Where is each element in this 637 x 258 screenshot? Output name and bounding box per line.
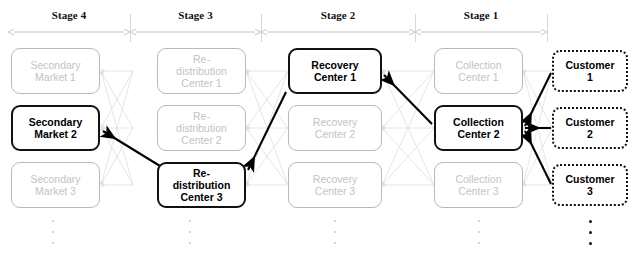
- node-label: SecondaryMarket 3: [15, 173, 96, 197]
- node-label: CollectionCenter 3: [438, 173, 519, 197]
- node-label: Customer3: [557, 173, 623, 197]
- node-collection-center-3[interactable]: CollectionCenter 3: [434, 162, 523, 208]
- node-label: Customer2: [557, 116, 623, 140]
- edge-redistribution3-to-secondarymarket2: [103, 131, 160, 166]
- node-collection-center-2[interactable]: CollectionCenter 2: [434, 105, 523, 151]
- node-label: Customer1: [557, 59, 623, 83]
- edge-recovery1-to-redistribution3: [248, 92, 286, 170]
- node-redistribution-center-3[interactable]: Re-distributionCenter 3: [157, 162, 246, 208]
- edge-customer3-to-collection2: [525, 131, 551, 184]
- node-label: SecondaryMarket 2: [16, 116, 95, 140]
- node-label: SecondaryMarket 1: [15, 59, 96, 83]
- ellipsis-redistribution-center: [185, 220, 195, 254]
- ellipsis-customer: [585, 220, 595, 254]
- node-redistribution-center-1[interactable]: Re-distributionCenter 1: [157, 48, 246, 94]
- node-recovery-center-1[interactable]: RecoveryCenter 1: [288, 48, 382, 94]
- ellipsis-collection-center: [474, 220, 484, 254]
- ellipsis-recovery-center: [330, 220, 340, 254]
- supply-chain-diagram: Stage 4 Stage 3 Stage 2 Stage 1: [0, 0, 637, 258]
- node-redistribution-center-2[interactable]: Re-distributionCenter 2: [157, 105, 246, 151]
- node-label: RecoveryCenter 2: [292, 116, 378, 140]
- node-recovery-center-2[interactable]: RecoveryCenter 2: [288, 105, 382, 151]
- edge-collection2-to-recovery1: [384, 75, 432, 124]
- node-recovery-center-3[interactable]: RecoveryCenter 3: [288, 162, 382, 208]
- node-customer-3[interactable]: Customer3: [552, 164, 628, 206]
- node-label: Re-distributionCenter 3: [162, 167, 241, 204]
- node-secondary-market-3[interactable]: SecondaryMarket 3: [11, 162, 100, 208]
- ellipsis-secondary-market: [48, 220, 58, 254]
- node-label: RecoveryCenter 3: [292, 173, 378, 197]
- node-label: CollectionCenter 1: [438, 59, 519, 83]
- node-customer-2[interactable]: Customer2: [552, 107, 628, 149]
- node-secondary-market-1[interactable]: SecondaryMarket 1: [11, 48, 100, 94]
- node-customer-1[interactable]: Customer1: [552, 50, 628, 92]
- node-secondary-market-2[interactable]: SecondaryMarket 2: [11, 105, 100, 151]
- node-label: CollectionCenter 2: [439, 116, 518, 140]
- node-collection-center-1[interactable]: CollectionCenter 1: [434, 48, 523, 94]
- node-label: Re-distributionCenter 2: [161, 110, 242, 147]
- node-label: RecoveryCenter 1: [293, 59, 377, 83]
- edge-customer1-to-collection2: [525, 73, 551, 126]
- node-label: Re-distributionCenter 1: [161, 53, 242, 90]
